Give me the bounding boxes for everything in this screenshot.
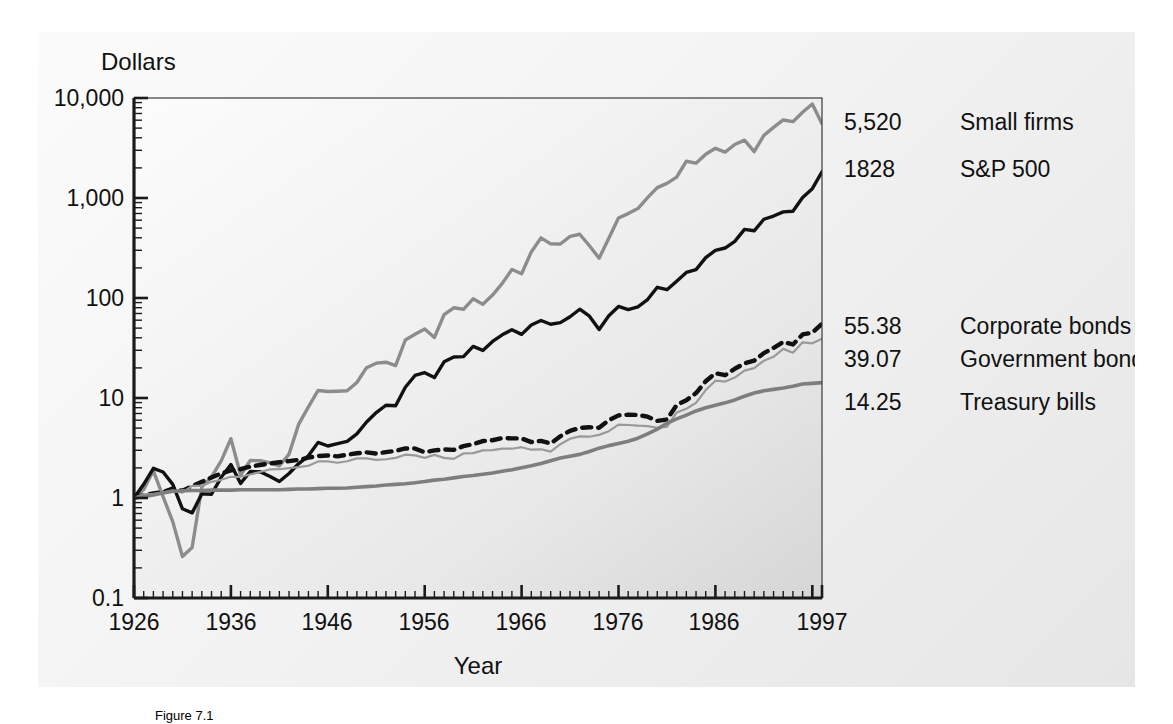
- x-tick-label: 1936: [205, 609, 256, 635]
- y-tick-label: 0.1: [92, 585, 124, 611]
- figure-card: Dollars 10,000 1,000 100 10 1 0.1 1926 1…: [38, 32, 1135, 687]
- figure-caption-text: Figure 7.1: [155, 708, 214, 723]
- figure-caption: Figure 7.1: [155, 706, 214, 724]
- returns-chart: Dollars 10,000 1,000 100 10 1 0.1 1926 1…: [38, 32, 1135, 687]
- legend-value: 55.38: [844, 313, 902, 339]
- legend-label-corporate-bonds: Corporate bonds: [960, 313, 1131, 339]
- legend: 5,520 Small firms 1828 S&P 500 55.38 Cor…: [844, 109, 1135, 415]
- legend-label-sp500: S&P 500: [960, 156, 1050, 182]
- y-tick-label: 10: [98, 385, 124, 411]
- legend-value: 14.25: [844, 389, 902, 415]
- x-tick-label: 1966: [495, 609, 546, 635]
- x-tick-label: 1956: [398, 609, 449, 635]
- legend-value: 5,520: [844, 109, 902, 135]
- x-tick-label: 1997: [796, 609, 847, 635]
- x-tick-label: 1946: [301, 609, 352, 635]
- legend-label-small-firms: Small firms: [960, 109, 1074, 135]
- legend-label-government-bonds: Government bonds: [960, 346, 1135, 372]
- legend-value: 39.07: [844, 346, 902, 372]
- y-tick-label: 100: [86, 285, 124, 311]
- x-tick-label: 1976: [592, 609, 643, 635]
- y-axis-title: Dollars: [101, 48, 176, 75]
- y-tick-label: 10,000: [54, 85, 124, 111]
- x-tick-label: 1986: [688, 609, 739, 635]
- x-tick-label: 1926: [108, 609, 159, 635]
- y-tick-label: 1,000: [66, 185, 124, 211]
- legend-label-treasury-bills: Treasury bills: [960, 389, 1096, 415]
- legend-value: 1828: [844, 156, 895, 182]
- x-axis-title: Year: [454, 652, 503, 679]
- y-tick-label: 1: [111, 485, 124, 511]
